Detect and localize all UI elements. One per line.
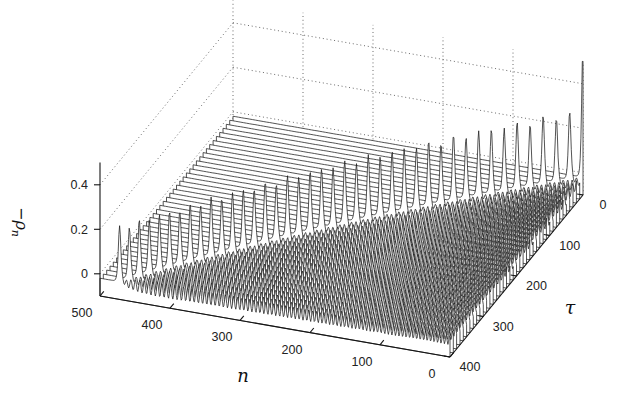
z-axis-label-subscript: n (9, 230, 22, 237)
mesh-plot-canvas: 5004003002001000010020030040000.20.4 (0, 0, 617, 403)
svg-text:400: 400 (142, 318, 163, 332)
svg-text:200: 200 (282, 343, 303, 357)
svg-text:300: 300 (493, 320, 514, 334)
svg-text:100: 100 (559, 239, 580, 253)
svg-text:0.2: 0.2 (71, 223, 88, 237)
svg-text:0.4: 0.4 (71, 178, 88, 192)
z-axis-label: −ρn (9, 207, 31, 237)
z-axis-label-main: −ρ (12, 207, 31, 230)
svg-text:0: 0 (429, 367, 436, 381)
svg-text:500: 500 (72, 306, 93, 320)
svg-text:0: 0 (81, 267, 88, 281)
svg-text:0: 0 (600, 198, 607, 212)
svg-text:200: 200 (526, 279, 547, 293)
scanned-figure-page: 5004003002001000010020030040000.20.4 n τ… (0, 0, 617, 403)
svg-text:100: 100 (352, 355, 373, 369)
y-axis-label: τ (565, 296, 576, 318)
svg-text:300: 300 (212, 330, 233, 344)
x-axis-label: n (237, 365, 249, 386)
svg-text:400: 400 (460, 360, 481, 374)
surface-slices (100, 61, 583, 357)
